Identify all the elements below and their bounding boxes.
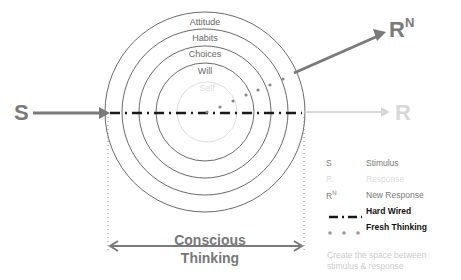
legend-item-new-response: RN New Response — [326, 187, 427, 203]
ring-label-will: Will — [198, 66, 213, 76]
new-response-superscript: N — [405, 15, 414, 30]
note-line1: Create the space between — [327, 250, 457, 261]
legend-item-response: R Response — [326, 171, 427, 187]
ring-label-self: Self — [199, 83, 215, 93]
legend-label: Hard Wired — [366, 206, 411, 216]
ring-label-habits: Habits — [192, 33, 218, 43]
response-label: R — [395, 100, 411, 125]
legend-item-stimulus: S Stimulus — [326, 155, 427, 171]
legend-label: Stimulus — [366, 158, 399, 168]
legend-key: RN — [326, 190, 366, 201]
legend-key: S — [326, 158, 366, 168]
ring-label-choices: Choices — [189, 49, 222, 59]
legend-label: Fresh Thinking — [366, 222, 427, 232]
legend: S Stimulus R Response RN New Response Ha… — [326, 155, 427, 235]
new-response-arrow — [294, 36, 378, 73]
conscious-thinking-label: Conscious Thinking — [170, 232, 250, 266]
response-arrowhead — [381, 107, 390, 117]
conscious-thinking-line1: Conscious — [170, 232, 250, 248]
legend-note: Create the space between stimulus & resp… — [327, 250, 457, 272]
note-line2: stimulus & response — [327, 261, 457, 272]
conscious-thinking-line2: Thinking — [170, 250, 250, 266]
legend-label: Response — [366, 174, 404, 184]
new-response-arrowhead — [373, 29, 386, 41]
new-response-label: R — [389, 17, 405, 42]
legend-item-hard-wired: Hard Wired — [326, 203, 427, 219]
fresh-thinking-dots — [205, 77, 284, 113]
legend-label: New Response — [366, 190, 424, 200]
stimulus-label: S — [14, 100, 29, 125]
legend-item-fresh-thinking: Fresh Thinking — [326, 219, 427, 235]
ring-label-attitude: Attitude — [190, 17, 221, 27]
legend-key: R — [326, 174, 366, 184]
